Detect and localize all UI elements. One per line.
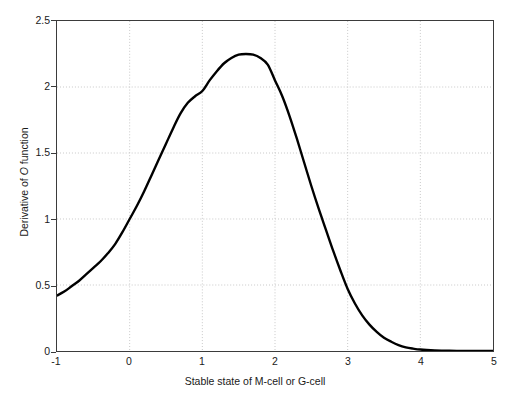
x-tick-label-1: 0 bbox=[109, 356, 149, 367]
y-tick-label-1: 2 bbox=[4, 81, 50, 92]
x-tick-label-0: -1 bbox=[36, 356, 76, 367]
plot-area bbox=[56, 20, 494, 352]
x-axis-label: Stable state of M-cell or G-cell bbox=[0, 375, 510, 387]
chart-figure: 2.5 2 1.5 1 0.5 0 -1 0 1 2 3 4 5 Stable … bbox=[0, 0, 510, 400]
y-axis-label-suffix: function bbox=[18, 127, 30, 167]
y-axis-label-italic: O bbox=[18, 167, 30, 175]
x-tick-label-3: 2 bbox=[255, 356, 295, 367]
x-tick-label-5: 4 bbox=[401, 356, 441, 367]
x-tick-label-6: 5 bbox=[474, 356, 510, 367]
data-curve bbox=[57, 21, 493, 351]
y-tick-label-4: 0.5 bbox=[4, 280, 50, 291]
y-axis-label: Derivative of O function bbox=[18, 92, 30, 272]
y-axis-label-prefix: Derivative of bbox=[18, 175, 30, 236]
x-tick-label-4: 3 bbox=[328, 356, 368, 367]
y-tick-label-0: 2.5 bbox=[4, 15, 50, 26]
y-tick-mark bbox=[51, 352, 56, 353]
x-tick-label-2: 1 bbox=[182, 356, 222, 367]
